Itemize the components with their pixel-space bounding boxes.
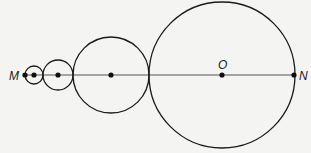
label-n: N bbox=[299, 69, 308, 83]
point-center-1 bbox=[31, 72, 36, 77]
diagram-canvas: M O N bbox=[0, 0, 311, 153]
label-m: M bbox=[9, 69, 19, 83]
point-center-3 bbox=[108, 72, 113, 77]
tangent-circles-diagram: M O N bbox=[0, 0, 311, 153]
point-o bbox=[219, 72, 224, 77]
point-n bbox=[291, 72, 296, 77]
point-center-2 bbox=[55, 72, 60, 77]
point-m bbox=[22, 72, 27, 77]
label-o: O bbox=[218, 58, 227, 72]
